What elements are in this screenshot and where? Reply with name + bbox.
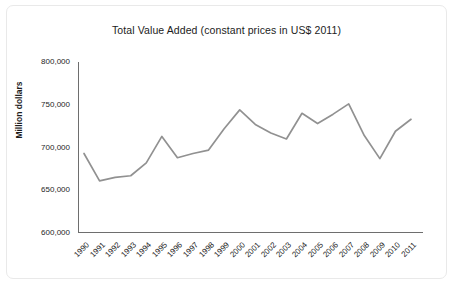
- plot-area: [78, 62, 423, 233]
- data-series-line: [84, 104, 411, 181]
- chart-figure: Total Value Added (constant prices in US…: [0, 0, 453, 284]
- chart-canvas: [78, 62, 423, 233]
